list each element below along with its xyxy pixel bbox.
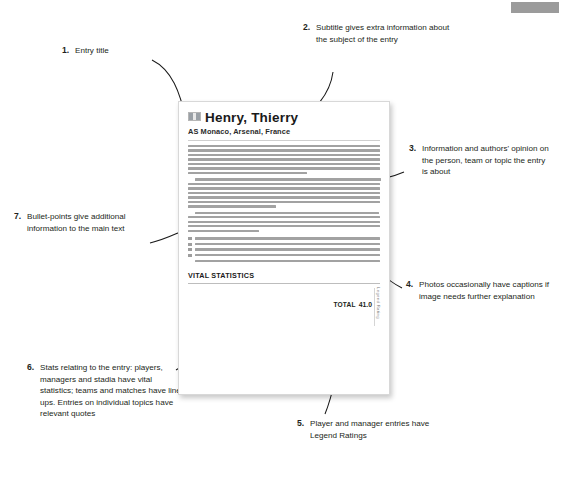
entry-body [188, 145, 380, 232]
annotation-3-number: 3. [409, 143, 422, 178]
bullet-item [188, 243, 380, 246]
vital-statistics-heading: VITAL STATISTICS [188, 271, 380, 280]
legend-total-value: 41.0 [359, 301, 372, 308]
annotation-2-number: 2. [303, 22, 316, 45]
vital-statistics: TOTAL 41.0 Legend Rating [188, 288, 380, 308]
entry-subtitle: AS Monaco, Arsenal, France [188, 127, 380, 136]
body-paragraph [188, 178, 380, 207]
annotation-7-text: Bullet-points give additional informatio… [27, 211, 156, 234]
bullet-marker-icon [188, 237, 192, 240]
bullet-marker-icon [188, 248, 192, 251]
annotation-4: 4. Photos occasionally have captions if … [406, 279, 554, 302]
annotation-3: 3. Information and authors' opinion on t… [409, 143, 549, 178]
annotation-2: 2. Subtitle gives extra information abou… [303, 22, 453, 45]
bullet-marker-icon [188, 254, 192, 257]
entry-title: Henry, Thierry [205, 110, 298, 125]
legend-total: TOTAL 41.0 [310, 301, 372, 308]
legend-ratings: TOTAL 41.0 Legend Rating [310, 288, 380, 308]
bullet-item [188, 259, 380, 262]
vital-statistics-divider [188, 283, 380, 284]
annotation-6-number: 6. [27, 362, 40, 420]
body-paragraph [188, 145, 380, 174]
monaco-flag-icon [188, 112, 201, 121]
annotation-5: 5. Player and manager entries have Legen… [297, 418, 457, 441]
bullet-item [188, 248, 380, 251]
entry-header: Henry, Thierry [188, 110, 380, 125]
bullet-item [188, 237, 380, 240]
bullet-points [188, 237, 380, 262]
annotation-7-number: 7. [14, 211, 27, 234]
annotation-7: 7. Bullet-points give additional informa… [14, 211, 156, 234]
annotation-5-text: Player and manager entries have Legend R… [310, 418, 457, 441]
body-paragraph [188, 212, 380, 232]
vital-statistics-rows [188, 288, 304, 308]
annotation-5-number: 5. [297, 418, 310, 441]
entry-page: Henry, Thierry AS Monaco, Arsenal, Franc… [178, 101, 390, 395]
legend-total-label: TOTAL [333, 301, 355, 308]
annotation-6: 6. Stats relating to the entry: players,… [27, 362, 187, 420]
annotation-2-text: Subtitle gives extra information about t… [316, 22, 453, 45]
annotated-page: 1. Entry title 2. Subtitle gives extra i… [0, 0, 569, 477]
legend-rating-vertical-label: Legend Rating [374, 287, 381, 327]
annotation-1-number: 1. [62, 45, 75, 57]
annotation-6-text: Stats relating to the entry: players, ma… [40, 362, 187, 420]
annotation-1: 1. Entry title [62, 45, 192, 57]
annotation-1-text: Entry title [75, 45, 192, 57]
bullet-marker-icon [188, 243, 192, 246]
top-right-tab [511, 2, 559, 13]
annotation-4-text: Photos occasionally have captions if ima… [419, 279, 554, 302]
annotation-4-number: 4. [406, 279, 419, 302]
bullet-item [188, 254, 380, 257]
annotation-3-text: Information and authors' opinion on the … [422, 143, 549, 178]
header-divider [188, 140, 380, 141]
